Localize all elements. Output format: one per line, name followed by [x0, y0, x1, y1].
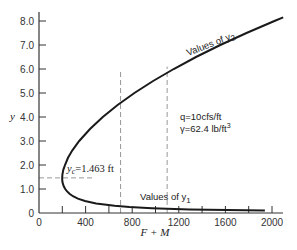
axes	[39, 12, 283, 213]
upper-branch-label: Values of y2	[185, 29, 238, 60]
y-tick-label: 7.0	[20, 40, 34, 51]
specific-force-curve	[62, 17, 283, 210]
y-tick-label: 4.0	[20, 112, 34, 123]
y-axis-title: y	[9, 110, 15, 122]
y-tick-label: 2.0	[20, 160, 34, 171]
x-tick-label: 0	[36, 217, 42, 228]
x-tick-label: 1200	[168, 217, 191, 228]
x-tick-label: 800	[124, 217, 141, 228]
y-tick-label: 5.0	[20, 88, 34, 99]
x-tick-label: 400	[77, 217, 94, 228]
y-tick-label: 8.0	[20, 16, 34, 27]
y-tick-label: 1.0	[20, 184, 34, 195]
lower-branch-label: Values of y1	[140, 191, 191, 205]
x-axis-title: F + M	[140, 226, 171, 238]
x-tick-label: 1600	[214, 217, 237, 228]
unit-weight-label: γ=62.4 lb/ft3	[180, 122, 231, 134]
critical-depth-label: yc=1.463 ft	[66, 163, 114, 176]
x-tick-label: 2000	[261, 217, 284, 228]
specific-force-chart: 01.02.03.04.05.06.07.08.0040080012001600…	[0, 0, 297, 250]
discharge-label: q=10cfs/ft	[180, 111, 222, 122]
y-tick-label: 0	[28, 208, 34, 219]
y-tick-label: 6.0	[20, 64, 34, 75]
y-tick-label: 3.0	[20, 136, 34, 147]
